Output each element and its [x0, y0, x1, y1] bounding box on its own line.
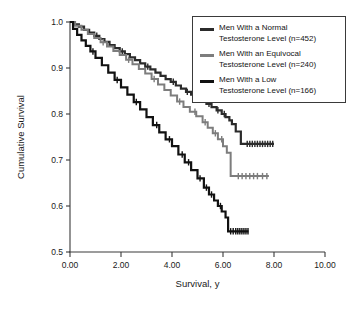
y-axis-title: Cumulative Survival: [15, 95, 26, 179]
y-tick-label: 0.7: [51, 155, 63, 165]
legend-label-equivocal: Men With an Equivocal Testosterone Level…: [219, 49, 316, 70]
y-tick-label: 0.8: [51, 109, 63, 119]
y-tick-label: 0.9: [51, 63, 63, 73]
legend-label-equivocal-line1: Men With an Equivocal: [219, 49, 301, 58]
legend-item-normal: Men With a Normal Testosterone Level (n=…: [198, 23, 339, 44]
legend-swatch-equivocal: [200, 54, 214, 57]
x-tick-label: 8.00: [266, 260, 283, 270]
x-tick-label: 4.00: [164, 260, 181, 270]
x-tick-label: 0.00: [62, 260, 79, 270]
legend-label-normal-line1: Men With a Normal: [219, 23, 287, 32]
y-tick-label: 1.0: [51, 17, 63, 27]
legend-label-normal-line2: Testosterone Level (n=452): [219, 34, 316, 43]
x-tick-label: 6.00: [215, 260, 232, 270]
legend-label-equivocal-line2: Testosterone Level (n=240): [219, 60, 316, 69]
legend-label-low: Men With a Low Testosterone Level (n=166…: [219, 75, 316, 96]
legend-label-low-line1: Men With a Low: [219, 75, 276, 84]
x-tick-label: 2.00: [113, 260, 130, 270]
y-tick-label: 0.5: [51, 247, 63, 257]
x-tick-label: 10.00: [314, 260, 336, 270]
legend-label-normal: Men With a Normal Testosterone Level (n=…: [219, 23, 316, 44]
legend-item-low: Men With a Low Testosterone Level (n=166…: [198, 75, 339, 96]
survival-chart-figure: 1.00.90.80.70.60.50.002.004.006.008.0010…: [0, 0, 358, 309]
legend-item-equivocal: Men With an Equivocal Testosterone Level…: [198, 49, 339, 70]
y-tick-label: 0.6: [51, 201, 63, 211]
x-axis-title: Survival, y: [176, 278, 220, 289]
legend-swatch-normal: [200, 28, 214, 31]
legend-swatch-low: [200, 80, 214, 83]
chart-legend: Men With a Normal Testosterone Level (n=…: [192, 16, 346, 103]
legend-label-low-line2: Testosterone Level (n=166): [219, 86, 316, 95]
